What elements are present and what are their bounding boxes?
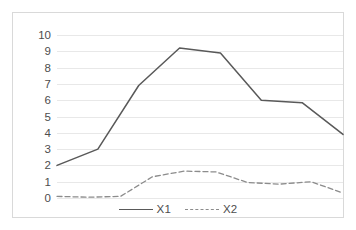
gridline: [57, 198, 343, 199]
legend-entry-x1[interactable]: X1: [119, 203, 171, 215]
y-tick-label: 8: [33, 62, 51, 74]
y-tick-label: 5: [33, 111, 51, 123]
series-lines: [57, 35, 343, 198]
y-tick-label: 2: [33, 159, 51, 171]
y-tick-label: 3: [33, 143, 51, 155]
y-tick-label: 10: [33, 29, 51, 41]
legend-label-x1: X1: [157, 203, 171, 215]
y-tick-label: 9: [33, 45, 51, 57]
legend-label-x2: X2: [223, 203, 237, 215]
y-tick-label: 6: [33, 94, 51, 106]
line-series-x1: [57, 48, 343, 165]
legend-swatch-dashed-icon: [185, 209, 219, 210]
y-tick-label: 4: [33, 127, 51, 139]
y-tick-label: 7: [33, 78, 51, 90]
chart-legend: X1 X2: [13, 203, 343, 215]
legend-swatch-solid-icon: [119, 209, 153, 210]
line-series-x2: [57, 171, 343, 197]
legend-entry-x2[interactable]: X2: [185, 203, 237, 215]
plot-area: [57, 35, 343, 198]
y-tick-label: 1: [33, 176, 51, 188]
chart-frame: 109876543210 X1 X2: [12, 12, 344, 218]
